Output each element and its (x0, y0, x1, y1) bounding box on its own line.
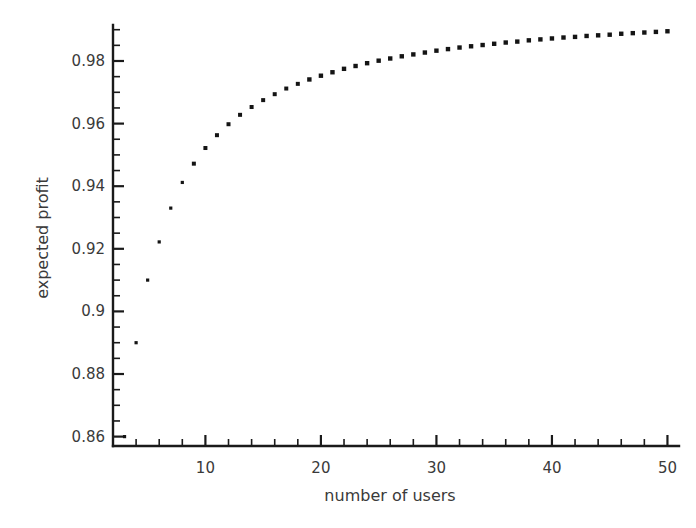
data-point (469, 44, 473, 48)
data-point (342, 67, 346, 71)
x-tick-label: 50 (658, 459, 677, 477)
data-point (376, 58, 380, 62)
data-point (365, 61, 369, 65)
data-point (619, 32, 623, 36)
y-tick-label: 0.86 (72, 428, 105, 446)
data-point (238, 113, 242, 117)
data-point (584, 34, 588, 38)
data-point (480, 43, 484, 47)
data-point (250, 105, 254, 109)
data-point (515, 39, 519, 43)
x-axis-ticks (113, 435, 667, 446)
data-point-series (123, 29, 670, 438)
chart-page: 0.860.880.90.920.940.960.98 1020304050 n… (0, 0, 696, 528)
x-tick-label: 30 (427, 459, 446, 477)
x-tick-label: 20 (311, 459, 330, 477)
data-point (146, 279, 149, 282)
y-tick-label: 0.9 (81, 302, 105, 320)
data-point (665, 29, 669, 33)
data-point (492, 42, 496, 46)
data-point (573, 35, 577, 39)
data-point (400, 54, 404, 58)
data-point (135, 341, 138, 344)
x-tick-label: 40 (542, 459, 561, 477)
data-point (411, 52, 415, 56)
data-point (307, 77, 311, 81)
y-axis-title: expected profit (33, 177, 52, 299)
axes-group (113, 25, 679, 446)
data-point (158, 240, 161, 243)
data-point (654, 30, 658, 34)
data-point (446, 47, 450, 51)
data-point (330, 70, 334, 74)
data-point (607, 33, 611, 37)
data-point (353, 64, 357, 68)
data-point (596, 33, 600, 37)
data-point (504, 40, 508, 44)
data-point (423, 50, 427, 54)
data-point (261, 98, 265, 102)
data-point (169, 207, 172, 210)
data-point (215, 133, 219, 137)
data-point (227, 122, 231, 126)
data-point (203, 146, 207, 150)
data-point (181, 181, 184, 184)
data-point (273, 92, 277, 96)
data-point (284, 87, 288, 91)
y-axis-tick-labels: 0.860.880.90.920.940.960.98 (72, 52, 105, 446)
data-point (434, 48, 438, 52)
x-tick-label: 10 (196, 459, 215, 477)
data-point (642, 30, 646, 34)
y-tick-label: 0.88 (72, 365, 105, 383)
scatter-plot: 0.860.880.90.920.940.960.98 1020304050 n… (0, 0, 696, 528)
y-tick-label: 0.96 (72, 115, 105, 133)
data-point (296, 82, 300, 86)
data-point (457, 45, 461, 49)
data-point (192, 162, 196, 166)
data-point (561, 35, 565, 39)
y-tick-label: 0.98 (72, 52, 105, 70)
y-tick-label: 0.92 (72, 240, 105, 258)
y-tick-label: 0.94 (72, 177, 105, 195)
y-axis-ticks (113, 30, 124, 437)
x-axis-tick-labels: 1020304050 (196, 459, 677, 477)
data-point (527, 38, 531, 42)
data-point (550, 36, 554, 40)
data-point (388, 56, 392, 60)
data-point (631, 31, 635, 35)
data-point (538, 37, 542, 41)
data-point (123, 435, 126, 438)
data-point (319, 74, 323, 78)
x-axis-title: number of users (324, 486, 455, 505)
